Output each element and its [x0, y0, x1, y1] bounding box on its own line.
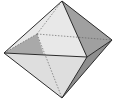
face-bottom-left: [4, 53, 87, 98]
octahedron-svg: [0, 0, 117, 106]
octahedron-diagram: [0, 0, 117, 106]
